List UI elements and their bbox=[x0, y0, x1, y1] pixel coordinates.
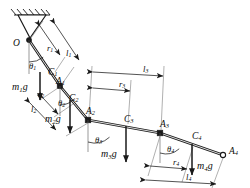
label-point-O: O bbox=[13, 38, 20, 48]
pivot-triangle bbox=[18, 15, 46, 38]
label-angle-theta3: θ3 bbox=[95, 135, 102, 145]
label-point-C4: C4 bbox=[192, 131, 202, 141]
dim-line-l4 bbox=[146, 180, 216, 184]
dim-line-l3 bbox=[93, 72, 163, 76]
label-dim-r3: r3 bbox=[119, 79, 125, 89]
label-angle-theta4: θ4 bbox=[167, 144, 174, 154]
ground-hatching bbox=[11, 9, 50, 15]
label-point-A1: A1 bbox=[55, 76, 65, 86]
label-force-m1g: m1g bbox=[12, 81, 28, 92]
label-dim-r2: r2 bbox=[38, 89, 44, 99]
label-point-C2: C2 bbox=[69, 93, 79, 103]
label-angle-theta1: θ1 bbox=[29, 61, 36, 71]
label-force-m4g: m4g bbox=[197, 160, 213, 171]
label-angle-theta2: θ2 bbox=[58, 98, 65, 108]
label-point-A4: A4 bbox=[228, 146, 239, 156]
dim-line-r4 bbox=[150, 166, 187, 169]
label-dim-l1: l1 bbox=[66, 48, 71, 58]
label-point-A2: A2 bbox=[85, 106, 96, 116]
fixed-support-group bbox=[11, 9, 50, 38]
label-force-m2g: m2g bbox=[45, 113, 61, 124]
free-body-diagram-canvas: O C1 A1 C2 A2 C3 A3 C4 A4 θ1 θ2 θ3 θ4 r1… bbox=[0, 0, 250, 188]
joint-A4-marker bbox=[220, 152, 225, 157]
dim-line-r2 bbox=[43, 98, 58, 114]
label-point-C3: C3 bbox=[124, 114, 134, 124]
label-dim-l3: l3 bbox=[143, 64, 148, 74]
diagram-svg: O C1 A1 C2 A2 C3 A3 C4 A4 θ1 θ2 θ3 θ4 r1… bbox=[0, 0, 250, 188]
label-dim-r4: r4 bbox=[173, 157, 179, 167]
label-point-A3: A3 bbox=[159, 119, 169, 129]
label-dim-l2: l2 bbox=[31, 104, 36, 114]
label-dim-l4: l4 bbox=[186, 172, 191, 182]
label-force-m3g: m3g bbox=[101, 148, 117, 159]
ext-line-link4-start bbox=[148, 136, 160, 176]
